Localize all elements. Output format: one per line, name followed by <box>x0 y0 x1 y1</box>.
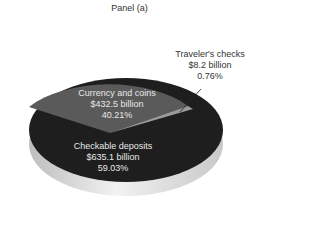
label-checkable: Checkable deposits $635.1 billion 59.03% <box>58 141 168 174</box>
label-currency: Currency and coins $432.5 billion 40.21% <box>62 88 172 121</box>
label-travelers: Traveler's checks $8.2 billion 0.76% <box>162 49 258 82</box>
